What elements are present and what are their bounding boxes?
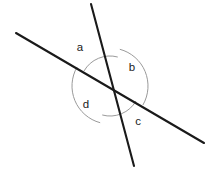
angle-arc-group — [72, 49, 148, 122]
angle-label-c: c — [135, 115, 141, 127]
angle-label-b: b — [129, 61, 135, 73]
angle-label-d: d — [83, 98, 89, 110]
angle-arc-a — [84, 56, 118, 71]
angle-arc-d — [72, 67, 100, 123]
line-group — [16, 4, 204, 166]
angle-label-a: a — [77, 41, 84, 53]
geometry-canvas: a b c d — [0, 0, 216, 174]
steep-line — [91, 4, 134, 166]
shallow-line — [16, 33, 204, 143]
geometry-figure: a b c d — [0, 0, 216, 174]
